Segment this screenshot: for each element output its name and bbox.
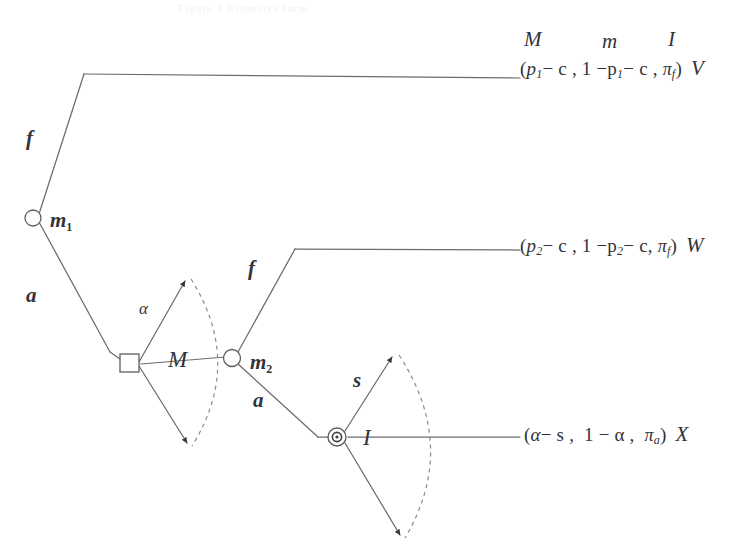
payoff-W: (p2− c , 1 −p2− c, πf)W <box>520 235 704 257</box>
edge-m1-f <box>39 74 84 214</box>
payoff-V-close: ) <box>675 58 682 79</box>
node-label-I-fan: I <box>363 426 371 449</box>
node-label-m2-text: m <box>250 350 266 374</box>
node-m1-circle <box>25 210 41 226</box>
node-I-center-dot <box>335 435 338 438</box>
payoff-V-second-rest: − c , <box>623 58 657 79</box>
payoff-W-first: p <box>527 235 537 256</box>
node-label-m2: m2 <box>250 352 272 375</box>
branch-label-a2: a <box>253 390 264 411</box>
edge-I-s-bottom <box>345 443 400 535</box>
arc-I-continuum <box>399 355 431 538</box>
edge-a-to-square <box>110 352 120 359</box>
branch-label-s: s <box>353 370 361 391</box>
edge-f-to-payoff-W <box>295 249 520 250</box>
payoff-V-first: p <box>527 58 537 79</box>
payoff-W-third: π <box>658 236 667 256</box>
node-square <box>120 354 139 372</box>
payoff-X-first: α <box>531 424 541 445</box>
node-label-m1-subscript: 1 <box>66 220 72 234</box>
payoff-X-second: 1 − α , <box>584 424 635 445</box>
payoff-W-close: ) <box>670 235 677 256</box>
tree-graphics <box>0 0 752 554</box>
node-glyphs <box>25 210 346 446</box>
edge-m2-f <box>238 249 295 352</box>
node-label-m1: m1 <box>50 210 72 233</box>
payoff-V-outcome: V <box>691 56 704 80</box>
payoff-V-third: π <box>663 59 672 79</box>
payoff-X-first-rest: − s , <box>541 424 574 445</box>
payoff-X-third: π <box>644 425 653 445</box>
payoff-X: (α− s , 1 − α , πa)X <box>524 424 688 446</box>
node-m2-circle <box>224 350 241 367</box>
payoff-X-close: ) <box>660 424 667 445</box>
column-header-m: m <box>602 31 617 52</box>
column-header-I: I <box>668 29 675 50</box>
edge-m2-a <box>238 364 318 437</box>
payoff-W-first-rest: − c , <box>542 235 576 256</box>
payoff-V-first-rest: − c , <box>542 58 576 79</box>
game-tree-figure: Figure 1 Extensive form <box>0 0 752 554</box>
edge-square-alpha-bottom <box>139 366 187 443</box>
edge-f-to-payoff-V <box>84 74 520 78</box>
payoff-X-outcome: X <box>675 422 688 446</box>
column-header-M: M <box>524 29 542 50</box>
payoff-W-second-rest: − c, <box>623 235 652 256</box>
node-label-m1-text: m <box>50 208 66 232</box>
payoff-W-outcome: W <box>686 233 704 257</box>
node-label-m2-subscript: 2 <box>266 362 272 376</box>
arc-M-continuum <box>191 279 218 446</box>
branch-label-f2: f <box>248 258 255 279</box>
node-label-M-fan: M <box>168 348 187 371</box>
edge-m1-a <box>39 222 110 352</box>
payoff-V: (p1− c , 1 −p1− c , πf)V <box>520 58 704 80</box>
branch-label-a1: a <box>26 285 37 306</box>
payoff-W-second: 1 −p <box>582 235 617 256</box>
branch-label-f1: f <box>26 128 33 149</box>
payoff-V-second: 1 −p <box>582 58 617 79</box>
branch-label-alpha: α <box>139 300 148 317</box>
